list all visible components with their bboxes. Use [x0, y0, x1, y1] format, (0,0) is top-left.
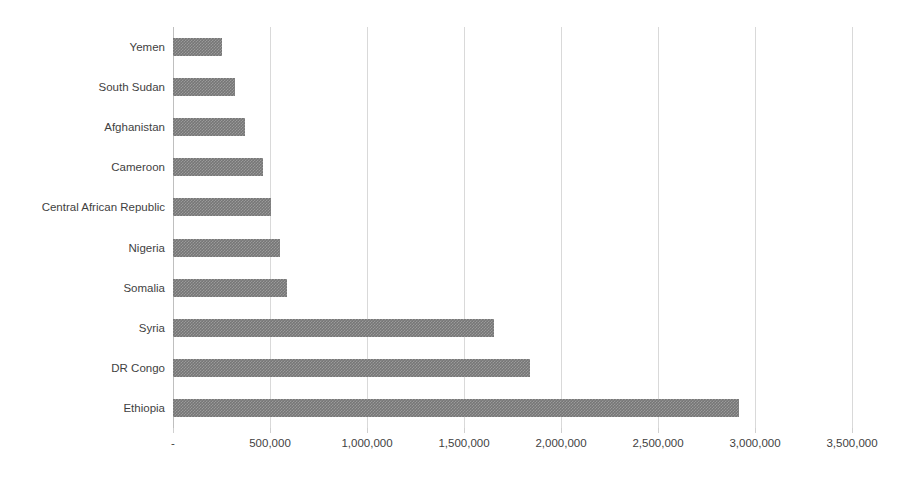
bar[interactable] [173, 359, 530, 377]
category-label: Syria [0, 321, 165, 335]
bar-row [173, 147, 853, 187]
plot-area [173, 27, 853, 428]
bar-row [173, 27, 853, 67]
x-tick-label: 500,000 [249, 437, 291, 449]
x-tick-label: 2,500,000 [632, 437, 683, 449]
category-label: Central African Republic [0, 200, 165, 214]
bar-row [173, 187, 853, 227]
value-axis: -500,0001,000,0001,500,0002,000,0002,500… [173, 437, 873, 457]
bar-row [173, 107, 853, 147]
tick-mark [464, 428, 465, 433]
x-tick-label: 1,000,000 [341, 437, 392, 449]
category-label: Afghanistan [0, 120, 165, 134]
category-label: Ethiopia [0, 401, 165, 415]
category-label: Nigeria [0, 241, 165, 255]
tick-mark [755, 428, 756, 433]
bar-row [173, 308, 853, 348]
bar[interactable] [173, 279, 287, 297]
category-label: South Sudan [0, 80, 165, 94]
bar-chart: YemenSouth SudanAfghanistanCameroonCentr… [0, 0, 916, 480]
tick-mark [561, 428, 562, 433]
tick-mark [852, 428, 853, 433]
category-label: Somalia [0, 281, 165, 295]
x-tick-label: 1,500,000 [438, 437, 489, 449]
bar[interactable] [173, 158, 263, 176]
tick-mark [658, 428, 659, 433]
bar[interactable] [173, 78, 235, 96]
bar[interactable] [173, 198, 271, 216]
x-tick-label: - [171, 437, 175, 449]
bar-row [173, 268, 853, 308]
category-label: Yemen [0, 40, 165, 54]
bar[interactable] [173, 399, 739, 417]
x-tick-label: 2,000,000 [535, 437, 586, 449]
category-axis: YemenSouth SudanAfghanistanCameroonCentr… [0, 27, 165, 428]
bar-row [173, 228, 853, 268]
category-label: Cameroon [0, 160, 165, 174]
bar[interactable] [173, 118, 245, 136]
category-label: DR Congo [0, 361, 165, 375]
x-tick-label: 3,000,000 [729, 437, 780, 449]
tick-mark [367, 428, 368, 433]
bar-row [173, 67, 853, 107]
bar[interactable] [173, 38, 222, 56]
bar-row [173, 348, 853, 388]
x-tick-label: 3,500,000 [826, 437, 877, 449]
bar[interactable] [173, 239, 280, 257]
tick-mark [173, 428, 174, 433]
tick-mark [270, 428, 271, 433]
bar-row [173, 388, 853, 428]
bar[interactable] [173, 319, 494, 337]
